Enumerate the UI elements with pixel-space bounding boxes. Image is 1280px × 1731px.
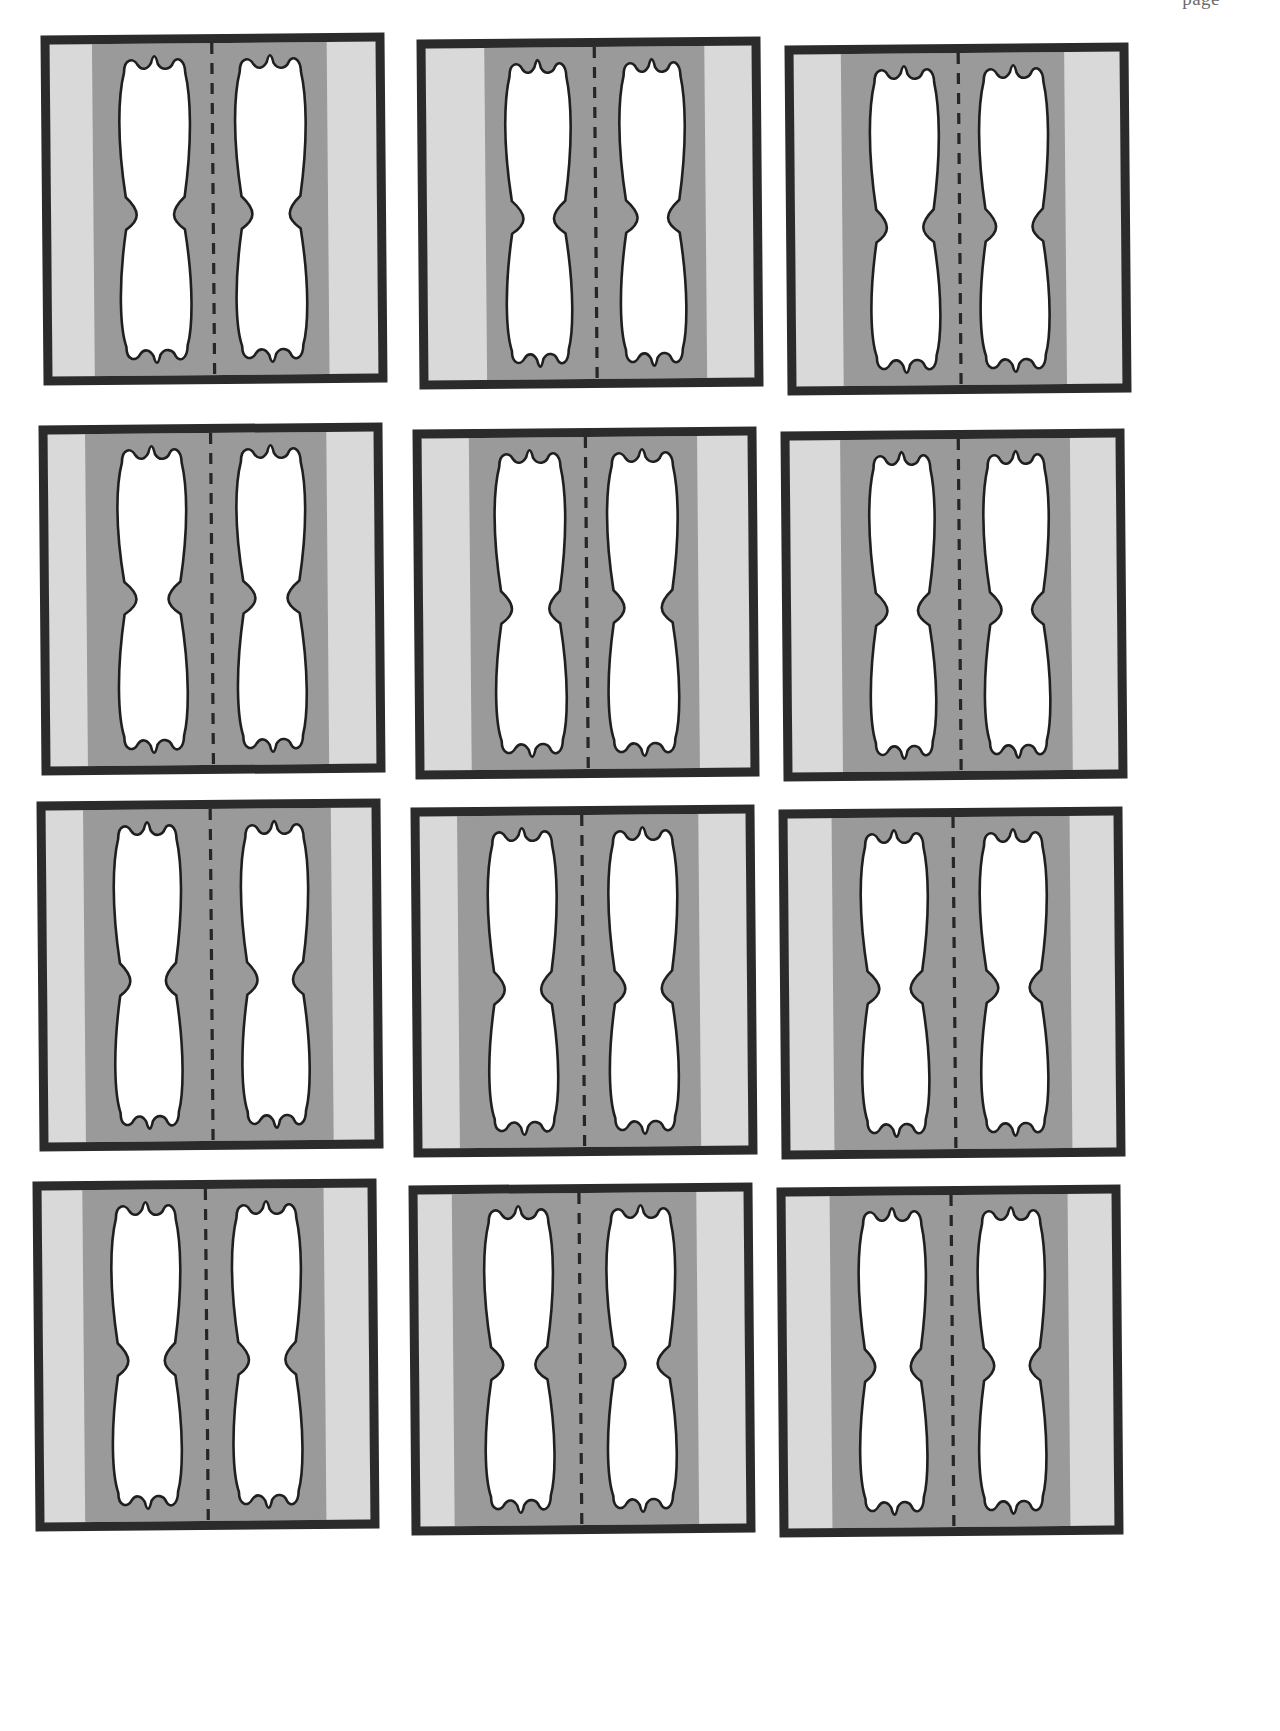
right-light-gray-band [1064, 52, 1122, 384]
figure-diagram [784, 43, 1131, 396]
figure-diagram [408, 1183, 755, 1536]
right-light-gray-band [331, 808, 375, 1140]
figure-cell-1 [40, 33, 387, 386]
figure-cell-8 [410, 805, 757, 1158]
figure-diagram [778, 807, 1125, 1160]
figure-diagram [32, 1179, 379, 1532]
left-light-gray-band [42, 1190, 86, 1522]
figure-cell-6 [780, 429, 1127, 782]
figure-cell-10 [32, 1179, 379, 1532]
figure-cell-3 [784, 43, 1131, 396]
figure-diagram [410, 805, 757, 1158]
right-light-gray-band [1070, 438, 1119, 770]
right-light-gray-band [697, 436, 750, 768]
left-light-gray-band [48, 434, 88, 766]
figure-cell-12 [776, 1185, 1123, 1538]
figure-cell-2 [416, 37, 763, 390]
left-light-gray-band [46, 810, 86, 1142]
figure-grid [0, 0, 1280, 1731]
right-light-gray-band [698, 814, 748, 1146]
figure-diagram [416, 37, 763, 390]
figure-diagram [40, 33, 387, 386]
right-light-gray-band [704, 46, 754, 378]
figure-diagram [36, 799, 383, 1152]
figure-diagram [38, 423, 385, 776]
left-light-gray-band [788, 818, 835, 1150]
right-light-gray-band [327, 42, 379, 374]
left-light-gray-band [786, 1196, 833, 1528]
right-light-gray-band [696, 1192, 746, 1524]
figure-cell-7 [36, 799, 383, 1152]
left-light-gray-band [418, 1194, 455, 1526]
left-light-gray-band [420, 816, 460, 1148]
right-light-gray-band [1070, 816, 1117, 1148]
left-light-gray-band [426, 48, 488, 380]
figure-cell-5 [412, 427, 759, 780]
figure-diagram [776, 1185, 1123, 1538]
figure-diagram [780, 429, 1127, 782]
left-light-gray-band [794, 54, 844, 386]
figure-cell-4 [38, 423, 385, 776]
figure-diagram [412, 427, 759, 780]
right-light-gray-band [324, 1188, 371, 1520]
left-light-gray-band [50, 44, 95, 376]
figure-cell-9 [778, 807, 1125, 1160]
right-light-gray-band [326, 432, 376, 764]
figure-cell-11 [408, 1183, 755, 1536]
left-light-gray-band [422, 438, 472, 770]
right-light-gray-band [1068, 1194, 1115, 1526]
left-light-gray-band [790, 440, 843, 772]
